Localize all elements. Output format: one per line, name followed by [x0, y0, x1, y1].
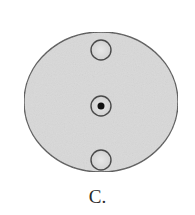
figure-label: C.	[0, 186, 195, 208]
bottom-circle	[91, 150, 111, 170]
center-dot-icon	[98, 103, 105, 110]
top-circle	[91, 40, 111, 60]
disc-diagram	[0, 0, 195, 215]
diagram-figure: C.	[0, 0, 195, 215]
